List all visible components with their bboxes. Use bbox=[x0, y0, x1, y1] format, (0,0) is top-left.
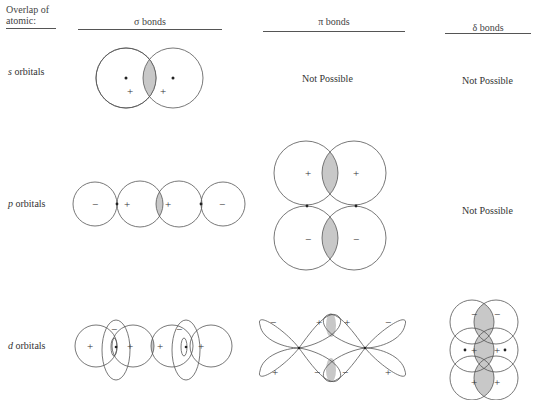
svg-text:−: − bbox=[219, 198, 225, 210]
d-sigma-diagram: + − + + − + bbox=[75, 320, 232, 380]
svg-text:+: + bbox=[471, 376, 477, 388]
orbital-diagrams: + + − + + − + + − − bbox=[0, 0, 535, 400]
svg-text:+: + bbox=[353, 167, 359, 179]
svg-text:+: + bbox=[344, 316, 350, 328]
svg-text:−: − bbox=[385, 316, 391, 328]
svg-text:+: + bbox=[305, 167, 311, 179]
svg-text:−: − bbox=[314, 366, 320, 378]
svg-text:+: + bbox=[471, 344, 477, 356]
svg-text:+: + bbox=[127, 85, 133, 97]
svg-text:−: − bbox=[270, 316, 276, 328]
svg-text:−: − bbox=[305, 233, 311, 245]
svg-text:+: + bbox=[157, 340, 163, 352]
svg-text:+: + bbox=[198, 340, 204, 352]
svg-text:+: + bbox=[316, 316, 322, 328]
s-sigma-diagram: + + bbox=[96, 48, 203, 108]
p-pi-diagram: + + − − bbox=[274, 141, 386, 270]
svg-text:+: + bbox=[385, 366, 391, 378]
svg-text:+: + bbox=[124, 198, 130, 210]
svg-text:−: − bbox=[342, 366, 348, 378]
svg-text:−: − bbox=[176, 323, 182, 335]
svg-text:−: − bbox=[471, 308, 477, 320]
svg-text:−: − bbox=[353, 233, 359, 245]
svg-text:+: + bbox=[160, 85, 166, 97]
svg-text:+: + bbox=[494, 344, 500, 356]
p-sigma-diagram: − + + − bbox=[73, 181, 245, 227]
svg-text:−: − bbox=[111, 323, 117, 335]
svg-text:+: + bbox=[87, 340, 93, 352]
d-delta-diagram: − − + + + + bbox=[450, 300, 518, 400]
svg-text:+: + bbox=[127, 340, 133, 352]
d-pi-diagram: − + + − + − − + bbox=[259, 313, 405, 382]
svg-text:−: − bbox=[92, 198, 98, 210]
svg-text:+: + bbox=[165, 198, 171, 210]
svg-text:−: − bbox=[494, 308, 500, 320]
svg-text:+: + bbox=[494, 376, 500, 388]
svg-text:+: + bbox=[272, 366, 278, 378]
